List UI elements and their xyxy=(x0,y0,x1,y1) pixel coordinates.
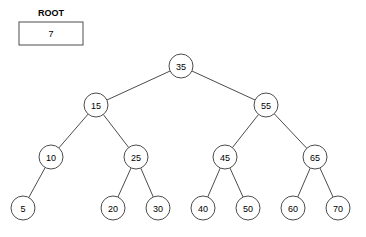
tree-node-20[interactable]: 20 xyxy=(101,196,125,220)
tree-node-5[interactable]: 5 xyxy=(11,196,35,220)
root-pointer-value: 7 xyxy=(48,29,53,39)
tree-edge-55-45 xyxy=(232,114,258,147)
tree-node-50[interactable]: 50 xyxy=(236,196,260,220)
tree-node-35[interactable]: 35 xyxy=(169,54,193,78)
tree-node-65[interactable]: 65 xyxy=(303,145,327,169)
tree-node-label-30: 30 xyxy=(153,204,163,214)
root-pointer-box: ROOT 7 xyxy=(19,8,83,45)
tree-node-label-45: 45 xyxy=(220,153,230,163)
tree-node-label-25: 25 xyxy=(131,153,141,163)
tree-edge-25-20 xyxy=(118,168,131,197)
tree-edge-35-15 xyxy=(107,71,170,100)
tree-edge-35-55 xyxy=(192,71,255,100)
tree-node-label-65: 65 xyxy=(310,153,320,163)
tree-node-label-40: 40 xyxy=(198,204,208,214)
tree-node-label-60: 60 xyxy=(288,204,298,214)
edges-layer xyxy=(29,71,333,197)
binary-tree-diagram: 351555102545655203040506070 ROOT 7 xyxy=(0,0,366,237)
nodes-layer: 351555102545655203040506070 xyxy=(11,54,350,220)
tree-edge-65-60 xyxy=(298,168,311,197)
tree-node-label-70: 70 xyxy=(333,204,343,214)
tree-node-label-5: 5 xyxy=(20,204,25,214)
tree-node-45[interactable]: 45 xyxy=(213,145,237,169)
tree-node-60[interactable]: 60 xyxy=(281,196,305,220)
root-pointer-label: ROOT xyxy=(38,8,65,18)
tree-node-40[interactable]: 40 xyxy=(191,196,215,220)
tree-node-70[interactable]: 70 xyxy=(326,196,350,220)
tree-edge-55-65 xyxy=(274,114,307,149)
tree-node-label-20: 20 xyxy=(108,204,118,214)
tree-node-25[interactable]: 25 xyxy=(124,145,148,169)
tree-canvas: 351555102545655203040506070 ROOT 7 xyxy=(0,0,366,237)
tree-edge-45-50 xyxy=(230,168,243,197)
tree-node-label-35: 35 xyxy=(176,62,186,72)
tree-edge-15-25 xyxy=(103,115,128,148)
tree-node-label-15: 15 xyxy=(91,101,101,111)
tree-edge-15-10 xyxy=(59,114,88,148)
tree-node-label-10: 10 xyxy=(46,153,56,163)
tree-edge-10-5 xyxy=(29,168,45,198)
tree-node-label-50: 50 xyxy=(243,204,253,214)
tree-node-15[interactable]: 15 xyxy=(84,93,108,117)
tree-edge-45-40 xyxy=(208,168,221,197)
tree-edge-65-70 xyxy=(320,168,333,197)
tree-node-10[interactable]: 10 xyxy=(39,145,63,169)
tree-node-55[interactable]: 55 xyxy=(254,93,278,117)
tree-node-30[interactable]: 30 xyxy=(146,196,170,220)
tree-node-label-55: 55 xyxy=(261,101,271,111)
tree-edge-25-30 xyxy=(141,168,154,197)
